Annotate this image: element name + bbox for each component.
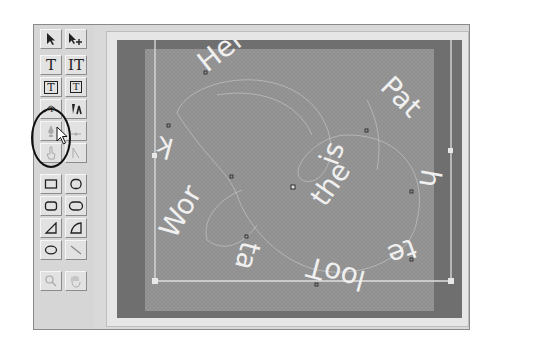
pasteboard: Here Pat h te looT ta Wor k is the	[117, 40, 462, 318]
path-text-word: looT	[302, 250, 369, 297]
type-tool[interactable]: T	[40, 55, 62, 75]
ellipse-icon	[44, 244, 58, 256]
area-vertical-type-glyph: T	[70, 81, 83, 93]
type-glyph: T	[46, 58, 56, 73]
path-text-artwork[interactable]: Here Pat h te looT ta Wor k is the	[117, 40, 462, 318]
rounded-square-tool[interactable]	[65, 174, 87, 194]
ellipse-tool[interactable]	[40, 240, 62, 260]
hand-icon	[69, 274, 83, 288]
rounded-rectangle-tool[interactable]	[40, 196, 62, 216]
canvas-frame: Here Pat h te looT ta Wor k is the	[106, 31, 469, 327]
quarter-circle-tool[interactable]	[65, 218, 87, 238]
hand-point-tool[interactable]	[40, 143, 62, 163]
path-text-word: Here	[191, 40, 264, 79]
magnifier-icon	[44, 274, 58, 288]
selection-arrow-tool[interactable]	[40, 29, 62, 49]
hand-tool[interactable]	[65, 271, 87, 291]
rectangle-icon	[44, 178, 58, 190]
rounded-square-icon	[69, 178, 83, 190]
vertical-path-type-tool[interactable]	[65, 99, 87, 119]
svg-text:T: T	[49, 105, 55, 114]
toolbox-row	[40, 218, 90, 238]
path-text-word: te	[383, 231, 421, 272]
toolbox-row: T T	[40, 77, 90, 97]
path-text-word: Wor	[152, 179, 208, 243]
path-type-tool[interactable]: T	[40, 99, 62, 119]
line-icon	[69, 244, 83, 256]
add-point-tool[interactable]	[65, 121, 87, 141]
oval-rectangle-tool[interactable]	[65, 196, 87, 216]
triangle-icon	[44, 222, 58, 234]
toolbox-row: T	[40, 99, 90, 119]
area-vertical-type-tool[interactable]: T	[65, 77, 87, 97]
toolbox-row	[40, 174, 90, 194]
vertical-type-tool[interactable]: IT	[65, 55, 87, 75]
finger-icon	[45, 146, 57, 160]
toolbox-row	[40, 29, 90, 49]
toolbox-row	[40, 121, 90, 141]
path-text-word: Pat	[374, 70, 428, 124]
toolbox-row	[40, 240, 90, 260]
path-type-icon: T	[43, 102, 59, 116]
path-text-word: ta	[228, 238, 267, 274]
pen-icon	[45, 124, 57, 138]
path-text-word: the	[304, 155, 357, 212]
path-text-word: h	[412, 167, 448, 190]
arrow-icon	[45, 32, 57, 46]
quarter-circle-icon	[69, 222, 83, 234]
vertical-path-type-icon	[69, 102, 83, 116]
toolbox-panel: T IT T T T	[34, 25, 94, 329]
add-point-icon	[69, 124, 83, 138]
toolbox-row	[40, 196, 90, 216]
toolbox-row	[40, 271, 90, 291]
rounded-rectangle-icon	[44, 200, 58, 212]
convert-point-tool[interactable]	[65, 143, 87, 163]
area-type-glyph: T	[44, 81, 57, 94]
pen-tool[interactable]	[40, 121, 62, 141]
toolbox-row	[40, 143, 90, 163]
triangle-tool[interactable]	[40, 218, 62, 238]
vertical-type-glyph: IT	[68, 58, 84, 73]
add-anchor-arrow-tool[interactable]	[65, 29, 87, 49]
area-type-tool[interactable]: T	[40, 77, 62, 97]
oval-rectangle-icon	[68, 200, 84, 212]
rectangle-tool[interactable]	[40, 174, 62, 194]
application-window: T IT T T T	[33, 24, 470, 330]
convert-point-icon	[70, 146, 82, 160]
toolbox-row: T IT	[40, 55, 90, 75]
zoom-tool[interactable]	[40, 271, 62, 291]
line-tool[interactable]	[65, 240, 87, 260]
arrow-plus-icon	[68, 32, 84, 46]
